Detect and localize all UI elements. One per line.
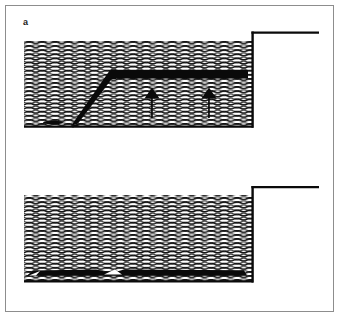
panel-a: a — [0, 0, 339, 158]
panel-b-scene — [0, 152, 339, 317]
settled-layer-b — [27, 269, 247, 275]
figure-root: a — [0, 0, 339, 317]
water-body-a — [24, 41, 252, 126]
horizontal-bar-a — [111, 70, 248, 80]
panel-a-scene — [0, 0, 339, 165]
water-body-b — [24, 195, 252, 282]
panel-b: b — [0, 152, 339, 317]
floor-deposit-a — [43, 121, 63, 125]
